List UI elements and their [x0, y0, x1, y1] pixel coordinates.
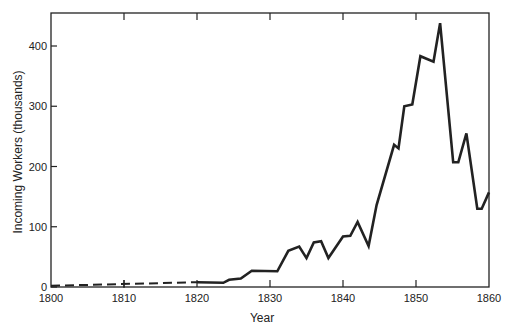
y-axis: 0100200300400	[29, 40, 57, 293]
x-tick-label: 1840	[331, 292, 355, 304]
x-axis-title: Year	[250, 311, 274, 325]
series-line	[197, 23, 489, 283]
x-tick-label: 1800	[39, 292, 63, 304]
x-tick-label: 1810	[112, 292, 136, 304]
plot-frame	[51, 13, 489, 287]
y-tick-label: 100	[29, 221, 47, 233]
y-tick-label: 200	[29, 161, 47, 173]
y-tick-label: 300	[29, 100, 47, 112]
y-axis-title: Incoming Workers (thousands)	[11, 70, 25, 233]
x-tick-label: 1830	[258, 292, 282, 304]
data-series	[51, 23, 489, 288]
x-tick-label: 1850	[404, 292, 428, 304]
line-chart: 0100200300400 18001810182018301840185018…	[0, 0, 507, 334]
x-tick-label: 1860	[477, 292, 501, 304]
x-axis: 1800181018201830184018501860	[39, 13, 501, 304]
plot-border	[51, 13, 489, 287]
y-tick-label: 400	[29, 40, 47, 52]
x-tick-label: 1820	[185, 292, 209, 304]
